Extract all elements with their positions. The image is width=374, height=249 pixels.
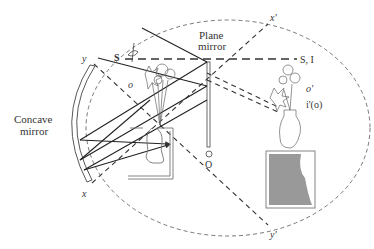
- light-rays: [80, 28, 207, 170]
- label-s-i: S, I: [300, 54, 314, 65]
- label-O: O: [205, 159, 212, 170]
- label-i-prime-o: i'(o): [306, 99, 322, 111]
- label-x: x: [81, 188, 87, 199]
- concave-mirror: [72, 65, 95, 182]
- concave-mirror-label-2: mirror: [20, 125, 48, 137]
- plane-mirror-label-2: mirror: [198, 40, 226, 52]
- label-y: y: [81, 53, 87, 64]
- image-stand: [266, 151, 315, 208]
- label-s: S: [114, 52, 120, 63]
- concave-mirror-label: Concave: [14, 113, 53, 125]
- image-vase: [270, 65, 301, 148]
- label-o: o: [128, 79, 133, 90]
- boundary-ellipse: [86, 20, 370, 236]
- label-y-prime: y': [269, 229, 277, 240]
- optics-diagram: Plane mirror Concave mirror x x' y y' S …: [0, 0, 374, 249]
- hidden-vase-box: [128, 128, 173, 179]
- plane-mirror: [206, 62, 212, 157]
- label-o-prime: o': [306, 83, 314, 94]
- label-x-prime: x': [269, 12, 277, 23]
